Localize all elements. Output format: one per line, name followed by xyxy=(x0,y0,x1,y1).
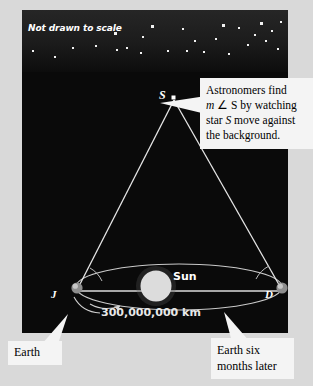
callout-astronomers-line2: m ∠ S by watching xyxy=(206,98,309,113)
callout-text: the background. xyxy=(206,129,280,141)
figure-root: Not drawn to scale xyxy=(0,0,313,386)
label-earth-j: J xyxy=(51,288,57,300)
callout-text-angle-s: ∠ S xyxy=(217,99,237,111)
callout-text: star xyxy=(206,114,225,126)
earth-highlight-d xyxy=(278,284,283,289)
callout-astronomers-line4: the background. xyxy=(206,128,309,143)
parallax-diagram xyxy=(22,10,288,333)
label-star-s: S xyxy=(159,88,166,103)
star-s-marker xyxy=(172,96,176,100)
callout-text: Astronomers find xyxy=(206,84,287,96)
sky-panel: Not drawn to scale xyxy=(22,10,288,333)
label-earth-d: D xyxy=(265,288,273,300)
callout-earth-six-line1: Earth six xyxy=(217,342,289,358)
sun-body xyxy=(141,271,172,302)
callout-text-m: m xyxy=(206,99,217,111)
label-baseline-distance: 300,000,000 km xyxy=(101,306,201,319)
label-sun: Sun xyxy=(173,270,197,283)
leg-S-to-J xyxy=(77,100,174,290)
callout-astronomers-line1: Astronomers find xyxy=(206,83,309,98)
callout-astronomers-line3: star S move against xyxy=(206,113,309,128)
callout-earth: Earth xyxy=(8,341,62,365)
callout-earth-six-months: Earth six months later xyxy=(211,338,294,379)
callout-earth-six-line2: months later xyxy=(217,358,289,374)
callout-text: by watching xyxy=(237,99,296,111)
callout-earth-label: Earth xyxy=(14,345,40,359)
callout-text: move against xyxy=(231,114,295,126)
earth-highlight-j xyxy=(73,284,78,289)
distance-leader-line xyxy=(74,297,100,313)
callout-astronomers: Astronomers find m ∠ S by watching star … xyxy=(200,78,313,149)
